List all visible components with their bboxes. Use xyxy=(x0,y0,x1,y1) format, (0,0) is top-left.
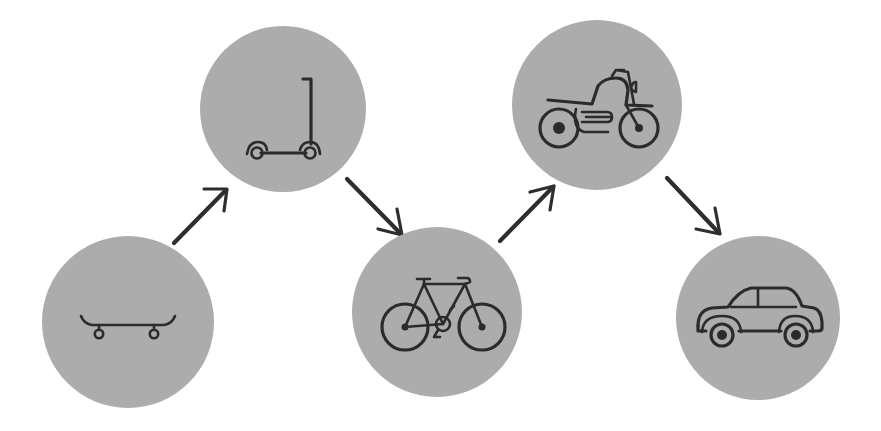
car-icon xyxy=(676,236,840,400)
arrow-skateboard-to-scooter xyxy=(174,189,227,243)
node-car: Car xyxy=(676,236,840,400)
scooter-icon xyxy=(200,26,366,192)
vehicle-progression-diagram: Skateboard Kick scooter Bicycle xyxy=(0,0,881,431)
node-scooter: Kick scooter xyxy=(200,26,366,192)
node-bicycle: Bicycle xyxy=(352,227,522,397)
bicycle-icon xyxy=(352,227,522,397)
motorcycle-icon xyxy=(512,20,682,190)
skateboard-icon xyxy=(42,236,214,408)
node-motorcycle: Motorcycle xyxy=(512,20,682,190)
node-skateboard: Skateboard xyxy=(42,236,214,408)
